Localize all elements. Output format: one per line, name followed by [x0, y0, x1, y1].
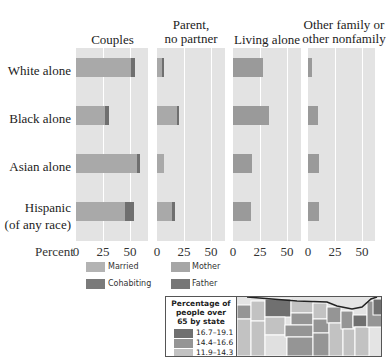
- x-tick-label: 25: [178, 244, 191, 260]
- map-legend-title-line1: Percentage of: [166, 299, 236, 308]
- map-range-low: 11.9–14.3: [196, 348, 233, 357]
- x-tick-label: 50: [281, 244, 294, 260]
- map-inset: Percentage of people over 65 by state 16…: [165, 296, 382, 357]
- bar-cohabiting: [137, 154, 140, 173]
- map-legend-title-line3: 65 by state: [166, 317, 236, 326]
- panel-parent-no-partner: [157, 48, 225, 241]
- map-range-mid: 14.4–16.6: [196, 338, 233, 347]
- x-tick-label: 0: [73, 244, 80, 260]
- row-label-hispanic: Hispanic (of any race): [5, 199, 71, 233]
- panel-living-alone: [233, 48, 301, 241]
- bar-living-alone: [233, 58, 263, 77]
- bar-father: [172, 202, 175, 221]
- panel-title-other: Other family or other nonfamily: [302, 18, 386, 46]
- x-tick-label: 50: [124, 244, 137, 260]
- bar-other: [308, 202, 319, 221]
- bar-cohabiting: [125, 202, 134, 221]
- map-swatch-mid: [174, 339, 193, 348]
- bar-mother: [157, 154, 164, 173]
- legend-label-mother: Mother: [192, 262, 220, 271]
- x-tick-label: 25: [329, 244, 342, 260]
- legend-label-father: Father: [192, 279, 217, 288]
- map-legend: Percentage of people over 65 by state 16…: [166, 297, 237, 356]
- gridline-50: [287, 48, 288, 241]
- bar-mother: [157, 202, 172, 221]
- gridline-50: [211, 48, 212, 241]
- row-label-hispanic-line2: (of any race): [5, 216, 71, 233]
- x-tick-label: 50: [205, 244, 218, 260]
- panel-other-family: [308, 48, 375, 241]
- x-tick-label: 25: [254, 244, 267, 260]
- map-legend-title-line2: people over: [166, 308, 236, 317]
- legend-label-cohabiting: Cohabiting: [108, 279, 151, 288]
- x-tick-label: 0: [154, 244, 161, 260]
- panel-title-parent-line2: no partner: [150, 32, 232, 46]
- x-tick-label: 0: [230, 244, 237, 260]
- row-label-white: White alone: [8, 63, 71, 78]
- x-axis-label: Percent: [35, 244, 74, 260]
- bar-married: [76, 202, 125, 221]
- map-range-high: 16.7–19.1: [196, 328, 233, 337]
- gridline-25: [184, 48, 185, 241]
- gridline-25: [335, 48, 336, 241]
- bar-other: [308, 58, 312, 77]
- panel-title-couples: Couples: [76, 33, 149, 47]
- x-tick-label: 50: [356, 244, 369, 260]
- x-tick-label: 25: [97, 244, 110, 260]
- bar-other: [308, 154, 319, 173]
- map-swatch-high: [174, 329, 193, 338]
- bar-father: [162, 58, 164, 77]
- legend-swatch-father: [171, 279, 190, 289]
- legend-swatch-married: [86, 262, 105, 272]
- bar-living-alone: [233, 202, 251, 221]
- bar-other: [308, 106, 318, 125]
- row-label-black: Black alone: [9, 111, 71, 126]
- us-state-map: [237, 297, 382, 356]
- bar-father: [177, 106, 179, 125]
- bar-married: [76, 106, 105, 125]
- bar-married: [76, 58, 131, 77]
- legend-label-married: Married: [108, 262, 138, 271]
- row-label-asian: Asian alone: [9, 159, 71, 174]
- panel-title-parent: Parent, no partner: [150, 18, 232, 46]
- panel-title-parent-line1: Parent,: [150, 18, 232, 32]
- x-tick-label: 0: [305, 244, 312, 260]
- panel-title-other-line1: Other family or: [302, 18, 386, 32]
- panel-title-living-alone: Living alone: [228, 33, 306, 47]
- legend-swatch-cohabiting: [86, 279, 105, 289]
- bar-mother: [157, 106, 177, 125]
- legend-swatch-mother: [171, 262, 190, 272]
- bar-living-alone: [233, 106, 269, 125]
- row-label-hispanic-line1: Hispanic: [5, 199, 71, 216]
- map-swatch-low: [174, 349, 193, 357]
- panel-couples: [76, 48, 148, 241]
- bar-married: [76, 154, 137, 173]
- bar-cohabiting: [131, 58, 135, 77]
- map-legend-title: Percentage of people over 65 by state: [166, 299, 236, 326]
- gridline-50: [362, 48, 363, 241]
- bar-cohabiting: [105, 106, 109, 125]
- bar-living-alone: [233, 154, 252, 173]
- panel-title-other-line2: other nonfamily: [302, 32, 386, 46]
